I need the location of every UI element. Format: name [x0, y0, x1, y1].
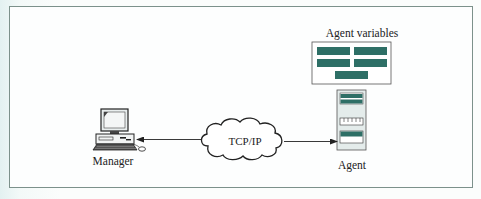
agent-variables-icon: [312, 42, 391, 84]
agent-label: Agent: [338, 160, 366, 172]
server-tower-icon: [337, 90, 366, 150]
manager-label: Manager: [93, 156, 134, 168]
network-label: TCP/IP: [228, 136, 261, 147]
desktop-computer-icon: [93, 109, 146, 151]
diagram-graphic: [0, 0, 481, 199]
agent-variables-label: Agent variables: [326, 28, 399, 40]
figure-canvas: Agent variables TCP/IP Manager Agent: [0, 0, 481, 199]
